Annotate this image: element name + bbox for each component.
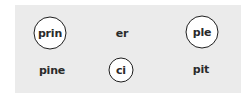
syllable-text: er — [116, 27, 129, 40]
syllable-pine[interactable]: pine — [39, 64, 65, 77]
syllable-circled-ci[interactable]: ci — [109, 58, 134, 83]
syllable-circled-prin[interactable]: prin — [34, 17, 67, 50]
syllable-text: prin — [38, 27, 62, 40]
syllable-text: ple — [193, 26, 212, 39]
syllable-text: pine — [39, 64, 65, 77]
syllable-circled-ple[interactable]: ple — [186, 16, 219, 49]
syllable-pit[interactable]: pit — [193, 63, 209, 76]
syllable-text: pit — [193, 63, 209, 76]
syllable-text: ci — [116, 64, 126, 77]
syllable-er[interactable]: er — [116, 27, 129, 40]
